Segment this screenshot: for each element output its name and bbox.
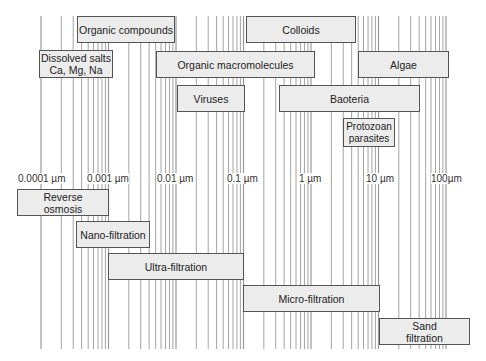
box-organic-macromolecules: Organic macromolecules	[156, 51, 315, 78]
box-micro-filtration: Micro-filtration	[243, 285, 380, 312]
tick-label-0.1: 0.1 µm	[227, 173, 258, 184]
box-colloids: Colloids	[246, 16, 356, 43]
label-ultra-filtration: Ultra-filtration	[145, 261, 207, 273]
box-bacteria: Baoteria	[279, 85, 420, 112]
label-sand-filtration: Sand filtration	[406, 320, 443, 344]
label-colloids: Colloids	[282, 24, 319, 36]
label-organic-compounds: Organic compounds	[79, 24, 173, 36]
box-sand-filtration: Sand filtration	[379, 318, 470, 345]
box-dissolved-salts: Dissolved salts Ca, Mg, Na	[39, 50, 113, 78]
label-protozoan-parasites: Protozoan parasites	[346, 121, 392, 145]
box-ultra-filtration: Ultra-filtration	[108, 253, 244, 280]
label-micro-filtration: Micro-filtration	[279, 293, 345, 305]
label-dissolved-salts: Dissolved salts Ca, Mg, Na	[41, 52, 111, 76]
tick-label-10: 10 µm	[366, 173, 394, 184]
tick-label-1: 1 µm	[299, 173, 321, 184]
box-organic-compounds: Organic compounds	[77, 16, 175, 43]
box-nano-filtration: Nano-filtration	[76, 221, 150, 248]
tick-label-0.001: 0.001 µm	[87, 173, 129, 184]
box-viruses: Viruses	[177, 85, 245, 112]
tick-label-100: 100µm	[431, 173, 462, 184]
tick-label-0.01: 0.01 µm	[157, 173, 193, 184]
label-viruses: Viruses	[194, 93, 229, 105]
box-reverse-osmosis: Reverse osmosis	[17, 189, 109, 216]
label-organic-macromolecules: Organic macromolecules	[177, 59, 293, 71]
box-protozoan-parasites: Protozoan parasites	[343, 118, 395, 147]
tick-label-0.0001: 0.0001 µm	[18, 173, 65, 184]
label-nano-filtration: Nano-filtration	[80, 229, 145, 241]
label-algae: Algae	[390, 59, 417, 71]
label-bacteria: Baoteria	[330, 93, 369, 105]
label-reverse-osmosis: Reverse osmosis	[43, 191, 82, 215]
box-algae: Algae	[358, 51, 449, 78]
